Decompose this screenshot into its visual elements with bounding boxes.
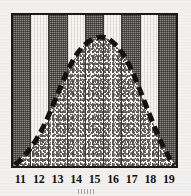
- x-tick-label-12: 12: [30, 172, 49, 186]
- x-tick-label-17: 17: [122, 172, 141, 186]
- x-tick-label-18: 18: [141, 172, 160, 186]
- x-tick-label-13: 13: [48, 172, 67, 186]
- stipple-texture: [13, 15, 176, 166]
- scan-artifact: [78, 189, 94, 194]
- x-axis-labels: 11 12 13 14 15 16 17 18 19: [11, 172, 178, 186]
- x-tick-label-19: 19: [160, 172, 179, 186]
- histogram-figure: 11 12 13 14 15 16 17 18 19: [0, 0, 191, 196]
- normal-curve-fill-region: [13, 15, 176, 166]
- x-tick-label-11: 11: [11, 172, 30, 186]
- x-tick-label-15: 15: [85, 172, 104, 186]
- x-tick-label-16: 16: [104, 172, 123, 186]
- x-tick-label-14: 14: [67, 172, 86, 186]
- plot-area: [11, 13, 178, 168]
